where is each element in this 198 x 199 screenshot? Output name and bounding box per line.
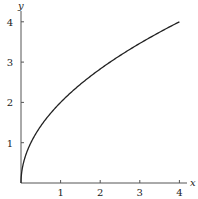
- y-tick-label: 4: [7, 17, 13, 28]
- x-tick-label: 3: [137, 187, 143, 198]
- y-tick-label: 1: [7, 138, 13, 149]
- y-axis-label: y: [17, 0, 24, 11]
- x-axis-label: x: [190, 177, 196, 188]
- chart: 1234 1234 x y: [0, 0, 198, 199]
- y-tick-label: 3: [7, 57, 13, 68]
- y-tick-label: 2: [7, 97, 13, 108]
- x-tick-label: 4: [176, 187, 182, 198]
- data-curve: [21, 22, 179, 183]
- x-tick-label: 2: [97, 187, 103, 198]
- x-tick-label: 1: [57, 187, 63, 198]
